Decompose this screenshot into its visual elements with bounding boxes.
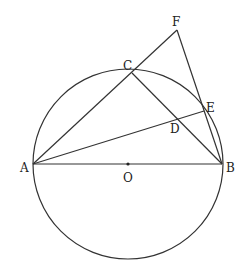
segment-ae <box>33 111 204 164</box>
label-e: E <box>206 101 215 115</box>
label-f: F <box>172 15 180 29</box>
label-c: C <box>123 59 132 73</box>
geometry-diagram: A B O C D E F <box>0 0 249 277</box>
label-d: D <box>170 122 180 136</box>
label-o: O <box>123 171 133 185</box>
segment-fb <box>177 30 222 164</box>
label-a: A <box>19 161 29 175</box>
point-o <box>126 162 129 165</box>
label-b: B <box>226 161 235 175</box>
segment-cb <box>132 73 222 164</box>
